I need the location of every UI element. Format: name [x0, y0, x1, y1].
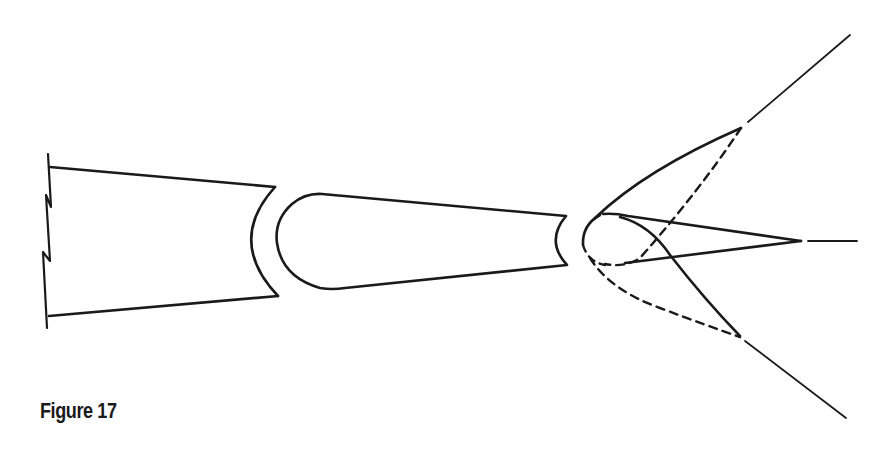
upper-ray [748, 35, 850, 122]
figure-drawing [0, 0, 894, 450]
figure-caption: Figure 17 [40, 398, 117, 424]
break-line-zigzag [43, 154, 51, 328]
lower-swept-edge [620, 217, 740, 336]
airfoil-outline [277, 194, 567, 289]
center-spike-top [603, 214, 801, 241]
root-bottom-edge [49, 296, 278, 316]
lower-ray [745, 341, 846, 418]
wing-root-section [43, 154, 278, 328]
root-concave-cut [251, 187, 278, 296]
lower-dashed-edge [590, 258, 740, 337]
upper-swept-edge [595, 128, 741, 218]
root-top-edge [50, 167, 275, 187]
upper-dashed-edge [605, 128, 741, 265]
airfoil-mid-section [277, 194, 567, 289]
nose-curve [583, 215, 600, 245]
swept-tip-section [583, 35, 857, 418]
